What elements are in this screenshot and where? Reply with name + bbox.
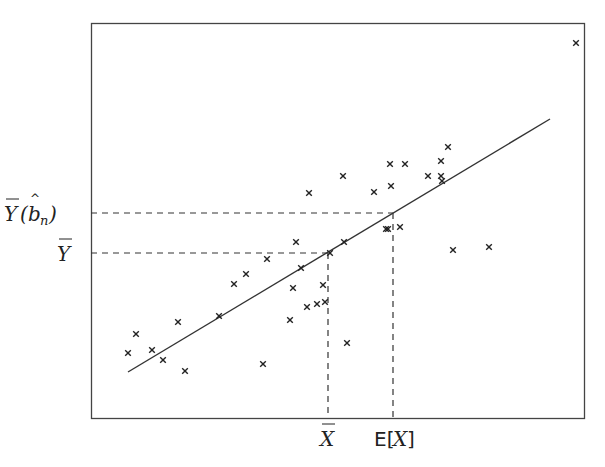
- data-point-marker: [287, 317, 293, 323]
- data-point-marker: [450, 247, 456, 253]
- data-point-marker: [160, 357, 166, 363]
- data-point-marker: [438, 158, 444, 164]
- data-point-marker: [306, 190, 312, 196]
- data-point-marker: [445, 144, 451, 150]
- data-point-marker: [322, 299, 328, 305]
- reference-lines: [91, 213, 393, 418]
- data-points: [125, 40, 579, 374]
- data-point-marker: [125, 350, 131, 356]
- data-point-marker: [149, 347, 155, 353]
- plot-frame: [92, 24, 585, 419]
- data-point-marker: [260, 361, 266, 367]
- svg-text:): ): [48, 202, 57, 226]
- data-point-marker: [133, 331, 139, 337]
- label-y-bar-bn: Y ( b ^ n ): [4, 192, 57, 228]
- data-point-marker: [573, 40, 579, 46]
- data-point-marker: [387, 161, 393, 167]
- data-point-marker: [264, 256, 270, 262]
- data-point-marker: [231, 281, 237, 287]
- svg-text:]: ]: [407, 427, 415, 451]
- data-point-marker: [290, 285, 296, 291]
- data-point-marker: [293, 239, 299, 245]
- data-point-marker: [175, 319, 181, 325]
- scatter-chart: Y ( b ^ n ) Y X E[ X ]: [0, 0, 605, 467]
- data-point-marker: [314, 301, 320, 307]
- svg-text:^: ^: [30, 192, 40, 206]
- data-point-marker: [371, 189, 377, 195]
- svg-text:Y: Y: [4, 202, 19, 226]
- data-point-marker: [298, 265, 304, 271]
- data-point-marker: [397, 224, 403, 230]
- data-point-marker: [402, 161, 408, 167]
- data-point-marker: [340, 173, 346, 179]
- data-point-marker: [243, 271, 249, 277]
- svg-text:Y: Y: [57, 242, 72, 266]
- svg-text:E[: E[: [374, 427, 394, 451]
- svg-text:n: n: [40, 213, 48, 228]
- data-point-marker: [304, 304, 310, 310]
- data-point-marker: [344, 340, 350, 346]
- data-point-marker: [182, 368, 188, 374]
- data-point-marker: [388, 183, 394, 189]
- data-point-marker: [486, 244, 492, 250]
- data-point-marker: [320, 282, 326, 288]
- data-point-marker: [438, 173, 444, 179]
- label-expected-x: E[ X ]: [374, 427, 415, 451]
- label-y-bar: Y: [57, 239, 72, 266]
- data-point-marker: [425, 173, 431, 179]
- label-x-bar: X: [318, 424, 335, 451]
- svg-text:X: X: [391, 427, 408, 451]
- svg-text:X: X: [318, 427, 335, 451]
